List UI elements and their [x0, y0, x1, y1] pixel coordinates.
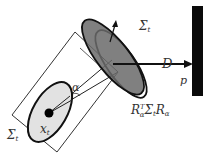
- label-sigma-top: Σt: [138, 19, 150, 34]
- wall-plane: [192, 6, 203, 96]
- label-rotated-covariance: RTαΣtRα: [130, 103, 170, 119]
- distance-arrowhead-icon: [184, 60, 193, 68]
- label-alpha: α: [72, 81, 80, 94]
- covariance-diagram: Σt Σt xt α D p RTαΣtRα: [0, 0, 213, 156]
- position-point-xt: [45, 109, 54, 118]
- normal-arrowhead-icon: [112, 20, 118, 27]
- label-distance-D: D: [161, 56, 173, 71]
- label-sigma-left: Σt: [6, 128, 18, 143]
- label-plane-p: p: [180, 74, 187, 87]
